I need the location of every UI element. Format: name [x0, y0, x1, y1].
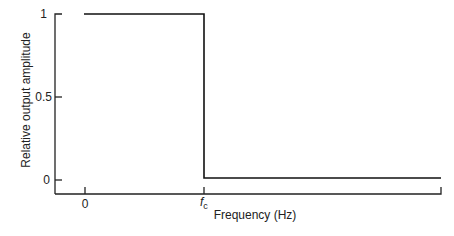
x-axis-title: Frequency (Hz)	[214, 208, 297, 222]
chart: 1 0.5 0 0 fc Frequency (Hz) Relative out…	[0, 0, 454, 236]
x-tick-label-fc: fc	[200, 195, 208, 211]
response-curve	[84, 14, 441, 178]
x-axis	[55, 187, 441, 194]
y-tick-label-0: 0	[43, 173, 50, 187]
y-tick-label-0.5: 0.5	[35, 90, 52, 104]
x-tick-label-0: 0	[82, 197, 89, 211]
y-axis-title: Relative output amplitude	[19, 32, 33, 168]
y-tick-label-1: 1	[40, 7, 47, 21]
y-axis	[55, 14, 62, 194]
fc-subscript: c	[203, 201, 208, 211]
